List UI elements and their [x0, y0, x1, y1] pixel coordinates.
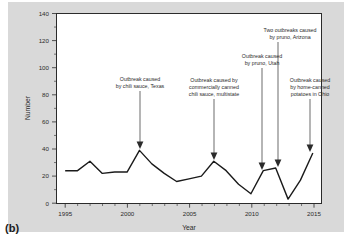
y-tick-60: 60 [42, 118, 56, 125]
x-axis: 1995 2000 2005 2010 2015 [58, 203, 321, 217]
annotation-line: Outbreak caused by [190, 77, 238, 83]
y-tick-label: 80 [42, 91, 49, 98]
annotation-line: by home-canned [290, 84, 330, 90]
y-tick-40: 40 [42, 145, 56, 152]
annotation-line: by chili sauce, Texas [116, 83, 165, 89]
y-tick-100: 100 [39, 64, 57, 71]
x-tick-label: 2015 [307, 210, 321, 217]
x-axis-title: Year [182, 224, 196, 231]
y-axis: 140 120 100 80 60 40 [39, 10, 57, 207]
x-tick-2015: 2015 [307, 203, 321, 217]
y-tick-0: 0 [46, 200, 57, 207]
x-tick-2010: 2010 [245, 203, 259, 217]
annotation-line: by pruno, Arizona [269, 34, 310, 40]
y-axis-title: Number [24, 95, 31, 120]
annotation-line: commercially canned [189, 84, 239, 90]
y-tick-label: 60 [42, 118, 49, 125]
annotation-line: by pruno, Utah [245, 60, 280, 66]
x-tick-label: 2010 [245, 210, 259, 217]
x-tick-label: 1995 [58, 210, 72, 217]
x-tick-2005: 2005 [183, 203, 197, 217]
annotation-line: Two outbreaks caused [264, 27, 317, 33]
figure-panel: 140 120 100 80 60 40 [0, 0, 346, 248]
annotation-line: potatoes in Ohio [291, 91, 330, 97]
y-tick-label: 0 [46, 200, 50, 207]
annotation-line: chili sauce, multistate [189, 91, 239, 97]
y-tick-140: 140 [39, 10, 57, 17]
x-tick-label: 2005 [183, 210, 197, 217]
y-tick-label: 100 [39, 64, 50, 71]
y-tick-label: 20 [42, 172, 49, 179]
x-tick-label: 2000 [121, 210, 135, 217]
y-tick-label: 140 [39, 10, 50, 17]
y-tick-label: 40 [42, 145, 49, 152]
plot-frame [57, 14, 322, 204]
y-tick-label: 120 [39, 37, 50, 44]
annotation-line: Outbreak caused [290, 77, 330, 83]
y-tick-80: 80 [42, 91, 56, 98]
x-tick-2000: 2000 [121, 203, 135, 217]
line-chart: 140 120 100 80 60 40 [0, 0, 346, 248]
panel-label: (b) [5, 222, 19, 234]
annotation-line: Outbreak caused [120, 76, 160, 82]
y-tick-20: 20 [42, 172, 56, 179]
x-tick-1995: 1995 [58, 203, 72, 217]
y-tick-120: 120 [39, 37, 57, 44]
annotation-line: Outbreak caused [242, 53, 282, 59]
